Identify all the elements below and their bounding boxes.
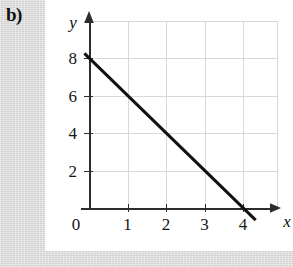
- y-axis-label: y: [67, 13, 77, 32]
- y-tick-label: 8: [69, 49, 78, 68]
- arrow-up-icon: [84, 11, 94, 23]
- axis-names: yx: [67, 13, 291, 231]
- coordinate-plot: 012342468 yx: [45, 0, 293, 251]
- vertical-gridlines: [90, 21, 278, 208]
- x-tick-label: 3: [200, 215, 209, 234]
- x-tick-label: 0: [72, 215, 81, 234]
- axis-arrowheads: [84, 11, 281, 213]
- x-tick-label: 4: [239, 215, 248, 234]
- plot-svg: 012342468 yx: [45, 0, 293, 251]
- figure-card: 012342468 yx: [45, 0, 293, 251]
- x-tick-label: 1: [123, 215, 132, 234]
- y-tick-label: 6: [69, 87, 78, 106]
- arrow-right-icon: [270, 203, 281, 213]
- worksheet-page: b) 012342468 yx: [0, 0, 293, 267]
- x-axis-label: x: [282, 212, 291, 231]
- problem-label: b): [6, 4, 22, 26]
- tick-marks: [84, 59, 244, 213]
- y-tick-label: 4: [69, 124, 78, 143]
- x-tick-label: 2: [162, 215, 171, 234]
- data-series: [84, 53, 255, 220]
- y-tick-label: 2: [69, 162, 78, 181]
- tick-labels: 012342468: [69, 49, 248, 234]
- plotted-line: [84, 53, 255, 220]
